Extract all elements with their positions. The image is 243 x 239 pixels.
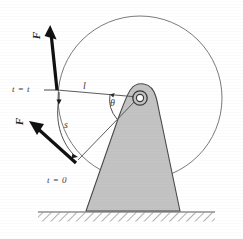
force-label-upper: F [31, 32, 42, 39]
time-label-lower: t = 0 [47, 176, 67, 185]
pivot-inner-hub [136, 94, 143, 101]
time-label-upper: t = t [12, 85, 30, 94]
radius-line-upper [57, 90, 138, 97]
ground-hatching [38, 213, 215, 222]
force-vector-upper-head [45, 25, 57, 40]
arc-s-arrowhead-lower [71, 153, 78, 158]
force-vector-lower-shaft [36, 127, 76, 163]
radius-label: l [83, 81, 86, 91]
force-label-lower: F [14, 118, 25, 125]
angle-label: θ [110, 98, 115, 108]
figure-canvas: F F t = t t = 0 l s θ [0, 0, 243, 239]
arc-label: s [64, 120, 68, 130]
tick-arrow-upper-head [56, 99, 61, 104]
force-vector-upper-shaft [51, 33, 57, 90]
